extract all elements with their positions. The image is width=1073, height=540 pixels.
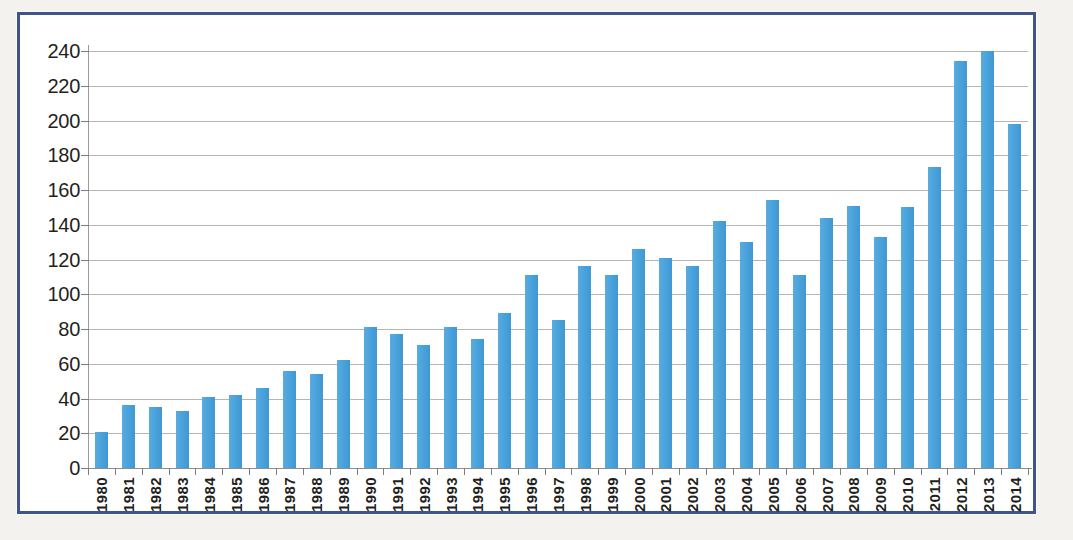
y-axis-tick-label: 80 bbox=[34, 318, 80, 341]
x-axis-tick bbox=[357, 468, 358, 475]
bar bbox=[766, 200, 779, 468]
bar bbox=[820, 218, 833, 468]
bar bbox=[122, 405, 135, 468]
x-axis-tick-label: 1991 bbox=[389, 477, 406, 512]
x-axis-tick bbox=[491, 468, 492, 475]
x-axis-tick-label: 2006 bbox=[792, 477, 809, 512]
bar bbox=[471, 339, 484, 468]
x-axis-tick bbox=[410, 468, 411, 475]
x-axis-tick-label: 1985 bbox=[228, 477, 245, 512]
bar bbox=[498, 313, 511, 468]
x-axis-tick-label: 1987 bbox=[281, 477, 298, 512]
gridline bbox=[88, 190, 1028, 191]
y-axis-tick bbox=[81, 121, 89, 122]
x-axis-tick-label: 1998 bbox=[577, 477, 594, 512]
y-axis-tick-label: 200 bbox=[34, 109, 80, 132]
bar bbox=[605, 275, 618, 468]
bar bbox=[444, 327, 457, 468]
y-axis-tick bbox=[81, 364, 89, 365]
x-axis-tick bbox=[1001, 468, 1002, 475]
x-axis-tick bbox=[142, 468, 143, 475]
y-axis-tick bbox=[81, 294, 89, 295]
x-axis-tick bbox=[679, 468, 680, 475]
bar bbox=[95, 432, 108, 468]
x-axis-tick bbox=[249, 468, 250, 475]
x-axis-tick-label: 1999 bbox=[604, 477, 621, 512]
x-axis-tick-label: 1997 bbox=[550, 477, 567, 512]
x-axis-tick-label: 1980 bbox=[93, 477, 110, 512]
bar bbox=[954, 61, 967, 468]
y-axis-tick bbox=[81, 329, 89, 330]
x-axis-tick bbox=[867, 468, 868, 475]
x-axis-tick-label: 1986 bbox=[255, 477, 272, 512]
y-axis-tick-label: 0 bbox=[34, 457, 80, 480]
bar bbox=[1008, 124, 1021, 468]
gridline bbox=[88, 468, 1028, 469]
y-axis-tick-label: 120 bbox=[34, 248, 80, 271]
x-axis-tick bbox=[921, 468, 922, 475]
x-axis-tick bbox=[706, 468, 707, 475]
gridline bbox=[88, 155, 1028, 156]
x-axis-tick-label: 1984 bbox=[201, 477, 218, 512]
x-axis-tick-label: 2014 bbox=[1007, 477, 1024, 512]
x-axis-tick bbox=[652, 468, 653, 475]
bar bbox=[337, 360, 350, 468]
x-axis-tick bbox=[437, 468, 438, 475]
x-axis-tick bbox=[464, 468, 465, 475]
y-axis-tick-label: 100 bbox=[34, 283, 80, 306]
x-axis-tick-label: 2002 bbox=[684, 477, 701, 512]
x-axis-tick-label: 1996 bbox=[523, 477, 540, 512]
bar bbox=[686, 266, 699, 468]
y-axis-tick bbox=[81, 399, 89, 400]
x-axis-tick-label: 1988 bbox=[308, 477, 325, 512]
bar bbox=[928, 167, 941, 468]
x-axis-tick-label: 1982 bbox=[147, 477, 164, 512]
y-axis-tick-label: 60 bbox=[34, 352, 80, 375]
x-axis-tick-label: 2009 bbox=[872, 477, 889, 512]
bar bbox=[525, 275, 538, 468]
x-axis-tick bbox=[169, 468, 170, 475]
y-axis-tick-label: 20 bbox=[34, 422, 80, 445]
x-axis-tick bbox=[733, 468, 734, 475]
x-axis-tick bbox=[974, 468, 975, 475]
y-axis-tick-label: 140 bbox=[34, 213, 80, 236]
y-axis-tick-label: 40 bbox=[34, 387, 80, 410]
gridline bbox=[88, 51, 1028, 52]
x-axis-tick bbox=[759, 468, 760, 475]
y-axis-tick bbox=[81, 190, 89, 191]
x-axis-tick-label: 2010 bbox=[899, 477, 916, 512]
bar bbox=[740, 242, 753, 468]
x-axis-tick bbox=[222, 468, 223, 475]
x-axis-tick bbox=[1028, 468, 1029, 475]
bar bbox=[578, 266, 591, 468]
x-axis-tick bbox=[813, 468, 814, 475]
gridline bbox=[88, 260, 1028, 261]
bar bbox=[793, 275, 806, 468]
plot-area bbox=[88, 51, 1028, 468]
x-axis-tick bbox=[947, 468, 948, 475]
x-axis-tick-label: 1992 bbox=[416, 477, 433, 512]
bar bbox=[847, 206, 860, 468]
bar bbox=[202, 397, 215, 468]
y-axis-tick bbox=[81, 260, 89, 261]
x-axis-tick bbox=[195, 468, 196, 475]
x-axis-tick bbox=[330, 468, 331, 475]
gridline bbox=[88, 294, 1028, 295]
x-axis-tick-label: 2011 bbox=[926, 477, 943, 511]
y-axis-tick bbox=[81, 51, 89, 52]
x-axis-tick bbox=[786, 468, 787, 475]
y-axis-tick-label: 160 bbox=[34, 179, 80, 202]
bar bbox=[283, 371, 296, 468]
x-axis-tick-label: 1993 bbox=[443, 477, 460, 512]
x-axis-tick bbox=[303, 468, 304, 475]
x-axis-tick-label: 2012 bbox=[953, 477, 970, 512]
x-axis-tick-label: 1994 bbox=[469, 477, 486, 512]
x-axis-tick-label: 2013 bbox=[980, 477, 997, 512]
x-axis-tick bbox=[115, 468, 116, 475]
x-axis-tick bbox=[840, 468, 841, 475]
x-axis-tick-label: 1981 bbox=[120, 477, 137, 512]
bar bbox=[713, 221, 726, 468]
y-axis-tick-label: 240 bbox=[34, 40, 80, 63]
bar bbox=[981, 51, 994, 468]
y-axis-labels: 240220200180160140120100806040200 bbox=[25, 51, 80, 468]
